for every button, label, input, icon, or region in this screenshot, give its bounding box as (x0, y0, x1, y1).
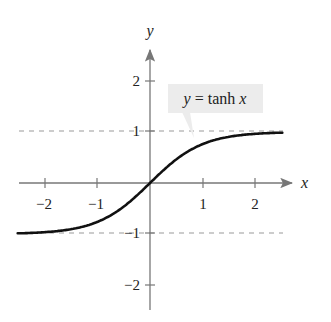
function-callout: y = tanh x (168, 84, 263, 138)
y-tick-label: −1 (124, 225, 140, 241)
x-axis-label: x (300, 174, 308, 191)
x-tick-label: −1 (88, 196, 104, 212)
x-tick-label: 1 (199, 196, 207, 212)
y-tick-label: 1 (133, 123, 141, 139)
x-tick-label: 2 (251, 196, 259, 212)
x-tick-label: −2 (36, 196, 52, 212)
callout-label: y = tanh x (182, 90, 247, 108)
y-tick-label: −2 (124, 277, 140, 293)
y-tick-label: 2 (133, 73, 141, 89)
y-axis: 2 1 −1 −2 y (124, 22, 155, 310)
tanh-chart: −2 −1 1 2 x 2 1 −1 −2 y y = tanh x (0, 0, 331, 322)
x-axis: −2 −1 1 2 x (19, 174, 308, 212)
y-axis-label: y (144, 22, 154, 40)
